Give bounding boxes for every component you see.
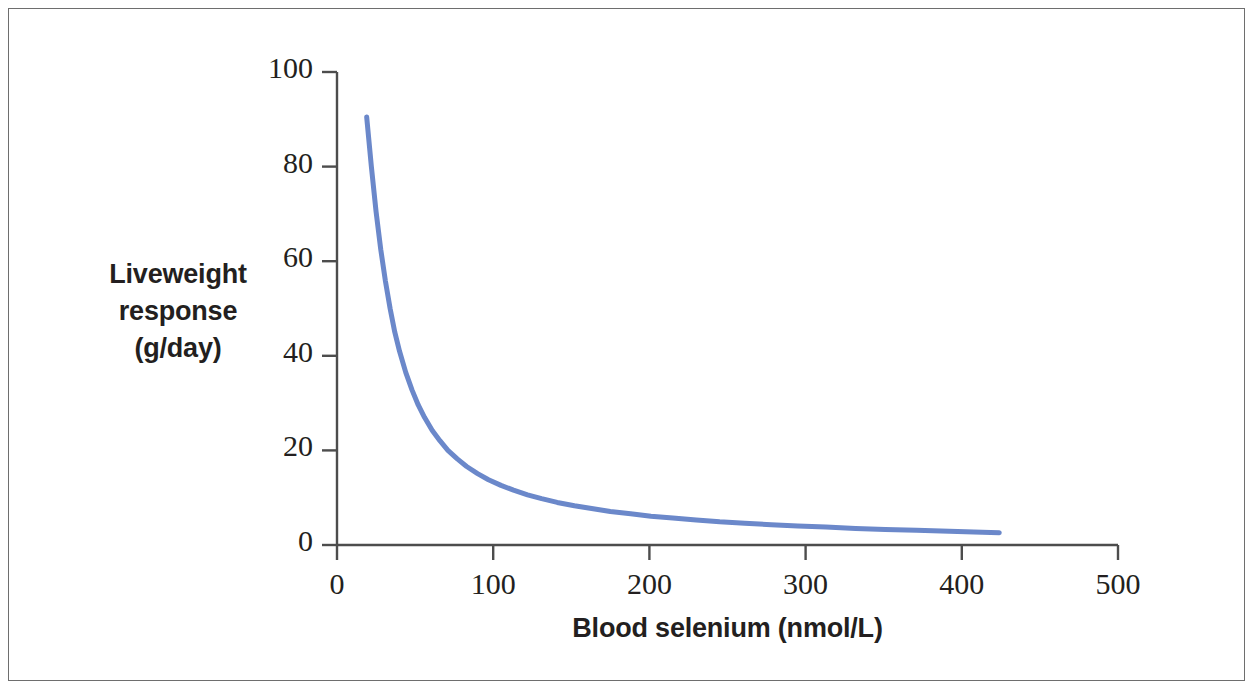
y-tick-label-40: 40 [241,335,313,369]
x-tick-label-300: 300 [766,567,846,601]
y-axis-ticks [322,72,337,545]
y-tick-label-0: 0 [241,524,313,558]
x-tick-label-200: 200 [609,567,689,601]
y-tick-label-80: 80 [241,146,313,180]
x-tick-label-400: 400 [922,567,1002,601]
x-tick-label-100: 100 [453,567,533,601]
axis-lines [337,72,1118,545]
y-tick-label-60: 60 [241,240,313,274]
y-tick-label-100: 100 [241,51,313,85]
y-tick-label-20: 20 [241,429,313,463]
x-axis-title: Blood selenium (nmol/L) [337,613,1118,644]
x-tick-label-500: 500 [1078,567,1158,601]
x-tick-label-0: 0 [297,567,377,601]
x-axis-ticks [337,545,1118,560]
y-axis-title-line-2: response [88,293,268,330]
data-series-line [367,117,1000,533]
